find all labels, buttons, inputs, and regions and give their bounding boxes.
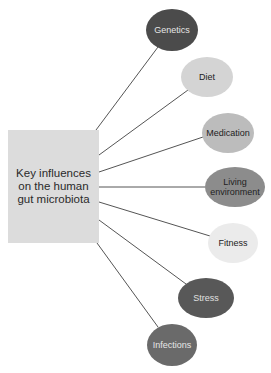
influence-node-label: Fitness: [218, 238, 247, 248]
influence-node-genetics: Genetics: [146, 9, 198, 51]
influence-node-label: Medication: [206, 128, 250, 138]
influence-node-diet: Diet: [181, 57, 233, 97]
influence-node-label: Infections: [153, 340, 192, 350]
influence-node-living-environment: Living environment: [205, 167, 265, 207]
connector-line: [99, 137, 203, 172]
influence-node-label: Stress: [193, 293, 219, 303]
influence-node-stress: Stress: [178, 278, 234, 318]
influence-node-infections: Infections: [147, 324, 197, 366]
connector-line: [96, 47, 158, 130]
connector-line: [99, 202, 210, 236]
connector-line: [99, 90, 188, 155]
influence-node-fitness: Fitness: [208, 223, 258, 263]
connector-line: [97, 243, 158, 327]
central-topic-box: Key influences on the human gut microbio…: [8, 130, 99, 243]
influence-node-medication: Medication: [202, 113, 254, 153]
central-topic-label: Key influences on the human gut microbio…: [12, 167, 95, 206]
connector-line: [99, 220, 186, 284]
influence-node-label: Living environment: [205, 177, 265, 197]
influence-node-label: Diet: [199, 72, 215, 82]
influence-node-label: Genetics: [154, 25, 190, 35]
